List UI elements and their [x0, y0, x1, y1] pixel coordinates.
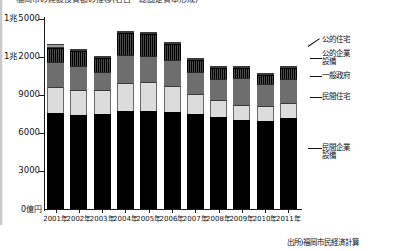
y-axis-tick	[39, 133, 44, 134]
bar-2002年	[70, 49, 87, 209]
legend-leader-koteki-kigyo	[310, 58, 322, 59]
bar-2009年	[233, 66, 250, 209]
bar-segment-民間住宅	[140, 82, 157, 111]
legend-label-minkan-jutaku: 民間住宅	[322, 93, 350, 102]
bar-segment-民間住宅	[280, 103, 297, 119]
bar-segment-公的企業設備	[70, 51, 87, 66]
chart-title-clipped: 福岡市の建設投資額の推移(名目・総固定資本形成)	[16, 0, 316, 7]
bar-segment-民間企業設備	[187, 114, 204, 209]
plot-area	[44, 19, 300, 209]
x-axis-tick	[102, 209, 103, 213]
bar-segment-公的企業設備	[280, 68, 297, 78]
y-axis-tick	[39, 95, 44, 96]
bar-2006年	[164, 42, 181, 209]
bar-segment-一般政府	[210, 79, 227, 100]
x-axis-tick	[242, 209, 243, 213]
bar-segment-公的企業設備	[47, 48, 64, 63]
legend-leader-koteki-jutaku	[308, 38, 320, 47]
bar-segment-民間企業設備	[210, 117, 227, 209]
legend-label-ippan-seifu: 一般政府	[322, 72, 350, 81]
x-axis-tick	[288, 209, 289, 213]
bar-segment-一般政府	[233, 78, 250, 105]
x-axis-tick	[195, 209, 196, 213]
x-axis-tick	[172, 209, 173, 213]
x-axis-tick	[149, 209, 150, 213]
chart-title-text: 福岡市の建設投資額の推移(名目・総固定資本形成)	[16, 0, 316, 4]
bar-segment-民間住宅	[117, 83, 134, 112]
bar-2001年	[47, 44, 64, 209]
bar-segment-民間住宅	[210, 100, 227, 117]
x-axis-line	[44, 209, 302, 210]
bar-segment-公的企業設備	[164, 44, 181, 60]
legend-label-koteki-jutaku: 公的住宅	[322, 36, 350, 45]
bar-2005年	[140, 32, 157, 209]
bar-2008年	[210, 66, 227, 209]
bar-segment-民間企業設備	[164, 112, 181, 209]
bar-segment-公的企業設備	[233, 68, 250, 78]
x-axis-tick	[125, 209, 126, 213]
x-axis-tick	[265, 209, 266, 213]
bar-segment-一般政府	[94, 72, 111, 90]
legend-leader-minkan-kigyo	[308, 148, 322, 149]
bar-segment-民間住宅	[233, 105, 250, 120]
bar-segment-民間住宅	[94, 90, 111, 114]
bar-segment-民間企業設備	[280, 118, 297, 209]
chart-legend: 公的住宅 公的企業 設備 一般政府 民間住宅 民間企業 設備	[300, 0, 398, 251]
bar-segment-公的企業設備	[257, 75, 274, 84]
bar-segment-公的企業設備	[187, 60, 204, 73]
y-axis-tick-label: 6000	[0, 128, 40, 137]
bar-segment-公的企業設備	[140, 34, 157, 56]
y-axis-tick	[39, 19, 44, 20]
bar-segment-一般政府	[47, 62, 64, 87]
source-note: 出所)福岡市民経済計算	[248, 238, 398, 247]
bar-segment-一般政府	[280, 79, 297, 103]
bar-segment-民間住宅	[257, 106, 274, 121]
y-axis-tick	[39, 57, 44, 58]
bar-segment-公的企業設備	[94, 58, 111, 72]
bar-segment-一般政府	[164, 60, 181, 86]
legend-label-koteki-kigyo-line2: 設備	[322, 58, 336, 67]
bar-segment-一般政府	[140, 56, 157, 83]
bar-segment-一般政府	[187, 72, 204, 94]
bar-segment-民間企業設備	[70, 115, 87, 209]
bar-2007年	[187, 58, 204, 209]
x-axis-tick	[79, 209, 80, 213]
bar-segment-民間住宅	[164, 86, 181, 112]
bar-segment-民間企業設備	[140, 111, 157, 209]
x-axis-tick	[219, 209, 220, 213]
y-axis-tick-label: 9000	[0, 90, 40, 99]
bar-segment-民間企業設備	[94, 114, 111, 209]
bar-segment-民間企業設備	[233, 120, 250, 209]
chart-root: 福岡市の建設投資額の推移(名目・総固定資本形成) 1兆50001兆2000900…	[0, 0, 398, 251]
bar-2003年	[94, 56, 111, 209]
bar-segment-一般政府	[70, 66, 87, 90]
x-axis-tick	[56, 209, 57, 213]
bar-segment-民間企業設備	[47, 113, 64, 209]
bar-segment-民間住宅	[47, 87, 64, 112]
legend-label-minkan-kigyo-line2: 設備	[322, 152, 336, 161]
bar-segment-一般政府	[117, 55, 134, 83]
y-axis-tick	[39, 171, 44, 172]
y-axis-zero-label: 0億円	[2, 203, 42, 214]
bar-segment-民間企業設備	[257, 121, 274, 209]
bar-segment-民間住宅	[70, 90, 87, 115]
y-axis-tick-label: 3000	[0, 166, 40, 175]
y-axis-tick-label: 1兆2000	[0, 52, 40, 61]
bar-segment-民間住宅	[187, 94, 204, 114]
bar-segment-民間企業設備	[117, 111, 134, 209]
bar-2004年	[117, 31, 134, 209]
legend-leader-minkan-jutaku	[310, 97, 322, 98]
bar-segment-公的企業設備	[210, 68, 227, 79]
bar-segment-公的企業設備	[117, 33, 134, 55]
bar-2010年	[257, 73, 274, 209]
bar-segment-一般政府	[257, 84, 274, 106]
x-axis-tick-label: 2011年	[274, 215, 302, 223]
bar-2011年	[280, 66, 297, 209]
legend-leader-ippan-seifu	[310, 76, 322, 77]
y-axis-tick-label: 1兆5000	[0, 14, 40, 23]
